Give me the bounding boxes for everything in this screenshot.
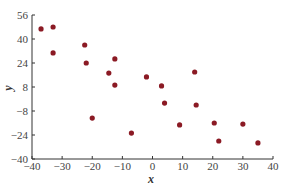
y-tick-label: −8 [16,105,28,117]
data-point [194,102,199,107]
y-tick-label: −24 [11,129,29,141]
x-tick-label: 40 [268,160,280,172]
data-point [216,138,221,143]
data-point [144,74,149,79]
x-tick-label: 30 [237,160,249,172]
x-tick-label: 0 [150,160,156,172]
x-tick-label: −20 [84,160,102,172]
y-axis-label: y [1,85,15,93]
data-point [162,100,167,105]
data-point [38,26,43,31]
data-point [50,24,55,29]
data-point [112,82,117,87]
y-tick-label: 40 [17,33,29,45]
data-point [82,42,87,47]
data-point [159,83,164,88]
data-point [106,70,111,75]
data-point [84,60,89,65]
x-tick-label: 10 [177,160,189,172]
data-point [112,56,117,61]
data-point [177,122,182,127]
data-point [240,121,245,126]
y-tick-label: −40 [11,153,29,165]
y-tick-label: 8 [23,81,29,93]
data-point [212,120,217,125]
data-point [50,50,55,55]
axes: −40−30−20−10010203040−40−24−88244056 [11,9,279,172]
x-tick-label: 20 [207,160,219,172]
x-tick-label: −30 [54,160,72,172]
x-axis-label: x [147,172,154,186]
data-point [255,140,260,145]
scatter-chart: −40−30−20−10010203040−40−24−88244056 x y [0,0,287,188]
data-point [129,130,134,135]
y-tick-label: 24 [17,57,29,69]
data-point [90,115,95,120]
x-tick-label: −10 [114,160,132,172]
data-points [38,24,260,145]
y-tick-label: 56 [17,9,29,21]
data-point [192,69,197,74]
